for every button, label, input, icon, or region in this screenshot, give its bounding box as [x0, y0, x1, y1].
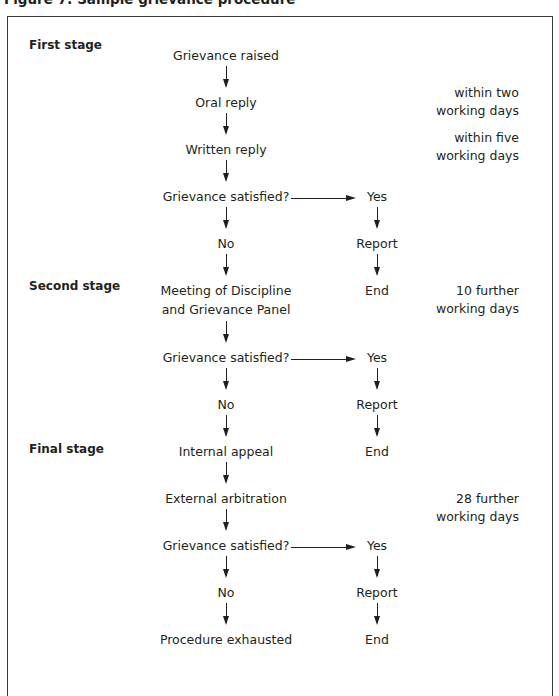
node-no-1: No	[218, 233, 235, 255]
node-grievance-raised: Grievance raised	[173, 45, 279, 67]
right-arrow-icon	[291, 542, 356, 552]
node-grievance-satisfied-2: Grievance satisfied?	[163, 347, 290, 369]
node-report-1: Report	[356, 233, 397, 255]
node-grievance-satisfied-1: Grievance satisfied?	[163, 186, 290, 208]
time-note-4: 28 further working days	[436, 488, 519, 528]
time-note-line2: working days	[436, 100, 519, 122]
down-arrow-icon	[221, 509, 231, 531]
down-arrow-icon	[221, 321, 231, 343]
down-arrow-icon	[221, 254, 231, 276]
node-procedure-exhausted: Procedure exhausted	[160, 629, 292, 651]
time-note-line2: working days	[436, 145, 519, 167]
down-arrow-icon	[221, 462, 231, 484]
time-note-2: within five working days	[436, 127, 519, 167]
node-oral-reply: Oral reply	[195, 92, 256, 114]
node-no-2: No	[218, 394, 235, 416]
figure-title: Figure 7: Sample grievance procedure	[4, 0, 296, 7]
node-report-2: Report	[356, 394, 397, 416]
time-note-line2: working days	[436, 298, 519, 320]
node-report-3: Report	[356, 582, 397, 604]
down-arrow-icon	[221, 160, 231, 182]
node-end-3: End	[365, 629, 389, 651]
stage-label-second: Second stage	[29, 279, 120, 293]
down-arrow-icon	[221, 113, 231, 135]
node-yes-1: Yes	[367, 186, 387, 208]
down-arrow-icon	[372, 368, 382, 390]
down-arrow-icon	[372, 254, 382, 276]
time-note-line2: working days	[436, 506, 519, 528]
right-arrow-icon	[291, 193, 356, 203]
down-arrow-icon	[372, 415, 382, 437]
down-arrow-icon	[221, 556, 231, 578]
node-written-reply: Written reply	[185, 139, 266, 161]
node-yes-2: Yes	[367, 347, 387, 369]
time-note-1: within two working days	[436, 82, 519, 122]
down-arrow-icon	[221, 66, 231, 88]
down-arrow-icon	[221, 207, 231, 229]
down-arrow-icon	[372, 603, 382, 625]
time-note-3: 10 further working days	[436, 280, 519, 320]
node-meeting-line2: and Grievance Panel	[162, 299, 291, 321]
node-external-arbitration: External arbitration	[165, 488, 287, 510]
right-arrow-icon	[291, 354, 356, 364]
down-arrow-icon	[221, 368, 231, 390]
down-arrow-icon	[221, 415, 231, 437]
down-arrow-icon	[221, 603, 231, 625]
node-no-3: No	[218, 582, 235, 604]
node-end-2: End	[365, 441, 389, 463]
node-yes-3: Yes	[367, 535, 387, 557]
node-grievance-satisfied-3: Grievance satisfied?	[163, 535, 290, 557]
node-end-1: End	[365, 280, 389, 302]
stage-label-final: Final stage	[29, 442, 104, 456]
down-arrow-icon	[372, 207, 382, 229]
stage-label-first: First stage	[29, 38, 102, 52]
node-internal-appeal: Internal appeal	[179, 441, 274, 463]
down-arrow-icon	[372, 556, 382, 578]
